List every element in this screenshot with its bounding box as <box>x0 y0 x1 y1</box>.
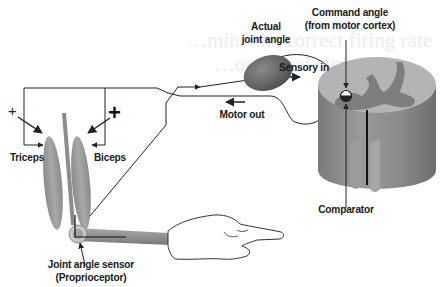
motor-out-label: Motor out <box>216 108 269 121</box>
diagram-canvas: …mine the correct firing rate …or neural… <box>0 0 441 287</box>
command-angle-label: Command angle (from motor cortex) <box>302 6 399 32</box>
diagram-graphics <box>0 0 441 287</box>
actual-joint-angle-label: Actual joint angle <box>240 20 293 46</box>
plus-sign-large: + <box>108 100 121 126</box>
plus-sign-small: + <box>8 102 17 119</box>
sensory-in-label: Sensory in <box>276 61 332 74</box>
actual-joint-angle-line2: joint angle <box>240 33 293 46</box>
motor-circuit-wires <box>18 88 180 145</box>
command-angle-line1: Command angle <box>302 6 399 19</box>
comparator-symbol <box>341 91 352 102</box>
joint-sensor-line1: Joint angle sensor <box>43 258 140 271</box>
spinal-cord <box>318 57 436 192</box>
triceps-label: Triceps <box>7 151 47 164</box>
joint-sensor-line2: (Proprioceptor) <box>43 271 140 284</box>
command-angle-line2: (from motor cortex) <box>302 19 399 32</box>
comparator-label: Comparator <box>311 203 381 216</box>
actual-joint-angle-line1: Actual <box>240 20 293 33</box>
hand <box>168 215 284 259</box>
biceps-label: Biceps <box>92 151 127 164</box>
joint-sensor-label: Joint angle sensor (Proprioceptor) <box>43 258 140 284</box>
triceps-muscle <box>40 135 66 230</box>
